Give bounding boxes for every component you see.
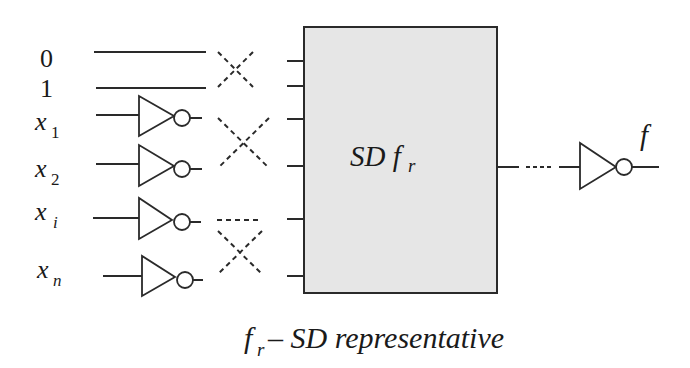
- input-label-x1: x 1: [34, 107, 60, 142]
- svg-text:x: x: [36, 255, 49, 284]
- inverter-xi: [93, 198, 201, 239]
- caption: f r – SD representative: [244, 321, 504, 360]
- svg-text:SD f: SD f: [350, 140, 405, 172]
- diagram-canvas: 0 1 x 1 x 2 x i x n: [0, 0, 690, 368]
- svg-text:1: 1: [51, 123, 60, 142]
- input-label-xi: x i: [34, 197, 58, 232]
- inverter-x2: [96, 145, 202, 186]
- svg-text:r: r: [257, 339, 265, 360]
- svg-text:n: n: [53, 271, 62, 290]
- svg-text:x: x: [34, 197, 47, 226]
- crossing-middle: [218, 118, 269, 168]
- svg-text:2: 2: [51, 170, 60, 189]
- crossing-top: [218, 52, 253, 87]
- input-label-x2: x 2: [34, 154, 60, 189]
- svg-text:f: f: [244, 321, 256, 354]
- svg-text:x: x: [34, 154, 47, 183]
- output-label-f: f: [640, 119, 652, 151]
- crossing-bottom: [218, 231, 262, 274]
- inverter-x1: [96, 96, 202, 136]
- block-input-stubs: [287, 61, 304, 276]
- svg-text:x: x: [34, 107, 47, 136]
- input-label-0: 0: [40, 44, 53, 73]
- svg-text:– SD representative: – SD representative: [267, 321, 504, 354]
- svg-text:i: i: [53, 213, 58, 232]
- svg-text:r: r: [408, 155, 416, 176]
- inverter-xn: [103, 256, 203, 296]
- input-label-1: 1: [40, 74, 53, 103]
- input-label-xn: x n: [36, 255, 62, 290]
